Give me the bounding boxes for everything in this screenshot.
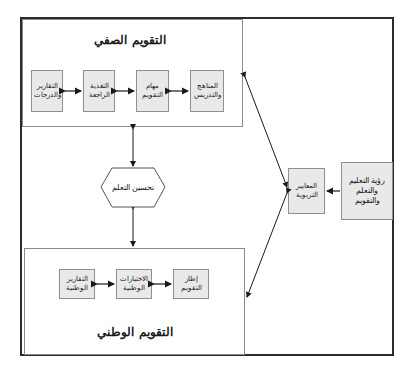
hexagon-label: تحسين التعلم bbox=[108, 178, 158, 196]
arrow-standards-classroom bbox=[245, 77, 287, 187]
connector-layer bbox=[0, 0, 411, 378]
arrow-standards-national bbox=[247, 193, 287, 297]
